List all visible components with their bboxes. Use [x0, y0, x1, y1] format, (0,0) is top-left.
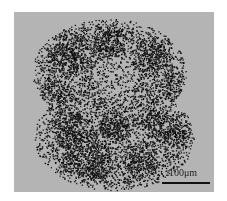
scale-bar: [162, 182, 210, 184]
scale-bar-label: 100μm: [169, 167, 197, 178]
cell-cluster: [14, 12, 214, 192]
micrograph-image: [14, 12, 214, 192]
